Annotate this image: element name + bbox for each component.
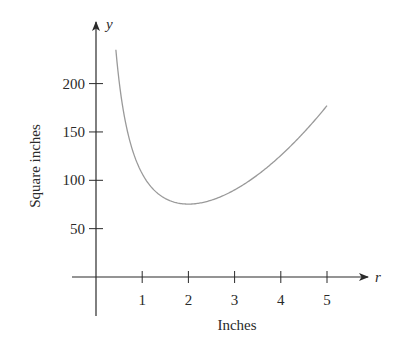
x-tick-label: 2 <box>185 292 193 308</box>
x-tick-label: 3 <box>231 292 239 308</box>
x-tick-label: 4 <box>277 292 285 308</box>
data-curve <box>116 50 327 204</box>
y-tick-label: 50 <box>70 221 85 237</box>
y-tick-label: 200 <box>63 76 86 92</box>
x-axis-label: Inches <box>217 317 256 333</box>
x-axis-var: r <box>375 269 381 285</box>
y-tick-label: 150 <box>63 124 86 140</box>
y-axis-label: Square inches <box>27 124 43 208</box>
x-tick-label: 5 <box>323 292 331 308</box>
y-axis-var: y <box>104 16 113 32</box>
chart: r y 12345 50100150200 Inches Square inch… <box>0 0 408 355</box>
y-ticks: 50100150200 <box>63 76 104 237</box>
y-tick-label: 100 <box>63 172 86 188</box>
x-tick-label: 1 <box>138 292 146 308</box>
